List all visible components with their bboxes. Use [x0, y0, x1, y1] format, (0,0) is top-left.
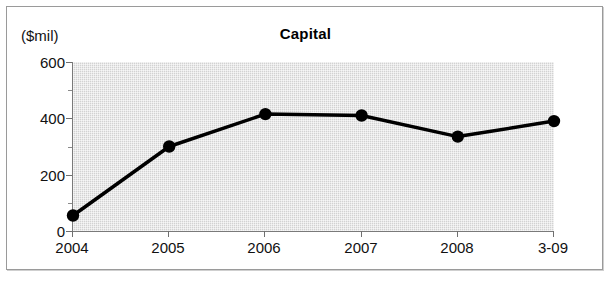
- x-axis-tick-mark: [168, 231, 169, 237]
- data-series-capital: [73, 62, 554, 231]
- y-axis-tick-label: 600: [40, 54, 65, 71]
- data-point-marker: [259, 108, 271, 120]
- x-axis-tick-mark: [457, 231, 458, 237]
- data-point-marker: [452, 130, 464, 142]
- plot-area: [72, 62, 554, 232]
- x-axis-tick-mark: [553, 231, 554, 237]
- x-axis-tick-label: 2008: [440, 239, 473, 256]
- y-axis-tick-label: 0: [57, 223, 65, 240]
- data-point-marker: [355, 109, 367, 121]
- y-axis-labels: 0200400600: [15, 7, 65, 271]
- x-axis-tick-mark: [264, 231, 265, 237]
- x-axis-tick-label: 2006: [247, 239, 280, 256]
- data-point-marker: [548, 115, 560, 127]
- y-axis-tick-label: 200: [40, 166, 65, 183]
- x-axis-tick-label: 2007: [344, 239, 377, 256]
- data-point-marker: [67, 209, 79, 221]
- x-axis-tick-label: 2004: [55, 239, 88, 256]
- x-axis-tick-label: 3-09: [538, 239, 568, 256]
- y-axis-tick-label: 400: [40, 110, 65, 127]
- x-axis-tick-label: 2005: [151, 239, 184, 256]
- data-point-marker: [163, 140, 175, 152]
- chart-frame: ($mil) Capital 0200400600 20042005200620…: [6, 6, 603, 270]
- chart-title: Capital: [7, 25, 604, 42]
- x-axis-tick-mark: [72, 231, 73, 237]
- x-axis-tick-mark: [361, 231, 362, 237]
- series-line: [73, 114, 554, 215]
